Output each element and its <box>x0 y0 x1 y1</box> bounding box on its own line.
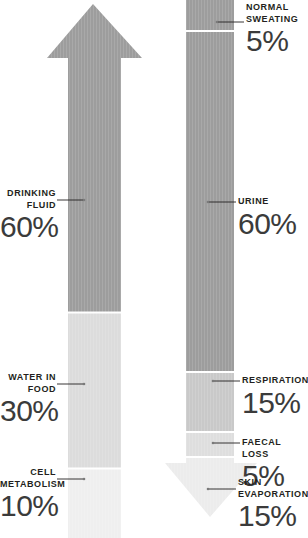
callout-drinking-fluid: DRINKING FLUID 60% <box>0 188 56 242</box>
label-cell-metabolism: CELL METABOLISM <box>0 467 56 490</box>
callout-water-in-food: WATER IN FOOD 30% <box>0 372 56 426</box>
label-drinking-fluid: DRINKING FLUID <box>0 188 56 211</box>
leader-dot-faecal-loss <box>212 442 215 445</box>
callout-respiration: RESPIRATION 15% <box>242 375 308 418</box>
callout-skin-evaporation: SKIN EVAPORATION 15% <box>238 477 308 531</box>
value-urine: 60% <box>238 208 304 239</box>
value-cell-metabolism: 10% <box>0 490 56 521</box>
label-normal-sweating: NORMAL SWEATING <box>246 2 308 25</box>
value-drinking-fluid: 60% <box>0 211 56 242</box>
value-skin-evaporation: 15% <box>238 500 308 531</box>
leader-dot-respiration <box>212 380 215 383</box>
value-water-in-food: 30% <box>0 395 56 426</box>
value-normal-sweating: 5% <box>246 25 308 56</box>
leader-dot-drinking-fluid <box>83 199 86 202</box>
label-respiration: RESPIRATION <box>242 375 308 387</box>
value-respiration: 15% <box>242 387 308 418</box>
divider-urine-respiration <box>186 371 234 373</box>
leader-dot-skin-evaporation <box>207 488 210 491</box>
infographic-canvas: DRINKING FLUID 60% WATER IN FOOD 30% CEL… <box>0 0 308 538</box>
leader-dot-urine <box>207 201 210 204</box>
divider-faecal-skin <box>186 456 234 458</box>
divider-drinking-water <box>68 312 121 314</box>
callout-urine: URINE 60% <box>238 196 304 239</box>
callout-cell-metabolism: CELL METABOLISM 10% <box>0 467 56 521</box>
divider-water-cell <box>68 468 121 470</box>
label-water-in-food: WATER IN FOOD <box>0 372 56 395</box>
label-skin-evaporation: SKIN EVAPORATION <box>238 477 308 500</box>
divider-sweating-urine <box>186 30 234 32</box>
label-urine: URINE <box>238 196 304 208</box>
divider-respiration-faecal <box>186 431 234 433</box>
leader-dot-normal-sweating <box>216 21 219 24</box>
callout-normal-sweating: NORMAL SWEATING 5% <box>246 2 308 56</box>
intake-arrow-segments <box>40 0 155 538</box>
label-faecal-loss: FAECAL LOSS <box>242 437 308 460</box>
leader-dot-cell-metabolism <box>83 478 86 481</box>
leader-dot-water-in-food <box>83 383 86 386</box>
